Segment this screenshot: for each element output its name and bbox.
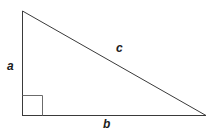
right-triangle-figure: a c b xyxy=(0,0,211,137)
label-side-b: b xyxy=(103,118,110,130)
side-c-line xyxy=(23,11,207,116)
right-angle-square xyxy=(23,96,43,116)
label-side-a: a xyxy=(7,60,14,72)
label-side-c: c xyxy=(116,42,123,54)
